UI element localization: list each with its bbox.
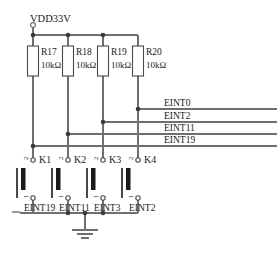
bottom-net-label-k3: EINT3 [94,204,120,214]
switch-ref-k3: K3 [109,155,121,165]
switch-ref-k2: K2 [74,155,86,165]
schematic-wires [0,0,277,254]
switch-pin-k1-top: 2 [23,157,30,160]
supply-label: VDD33V [30,14,71,25]
ground-icon [72,230,98,238]
switch-ref-k1: K1 [39,155,51,165]
switch-pin-k4-top: 2 [128,157,135,160]
switch-pin-k3-top: 2 [93,157,100,160]
switch-pin-k2-top: 2 [58,157,65,160]
rail-label-eint11: EINT11 [164,124,195,134]
switch-pin-k2-bottom: 1 [58,195,65,198]
switch-pin-k1-bottom: 1 [23,195,30,198]
switch-pin-k3-bottom: 1 [93,195,100,198]
bottom-net-label-k4: EINT2 [129,204,155,214]
resistor-ref-r18: R18 [76,48,92,58]
resistor-body-r17 [28,46,39,76]
resistor-ref-r20: R20 [146,48,162,58]
switch-ref-k4: K4 [144,155,156,165]
switch-pin-k4-bottom: 1 [128,195,135,198]
resistor-value-r19: 10kΩ [111,61,131,70]
rail-label-eint19: EINT19 [164,136,195,146]
resistor-ref-r19: R19 [111,48,127,58]
resistor-value-r18: 10kΩ [76,61,96,70]
resistor-body-r18 [63,46,74,76]
rail-label-eint0: EINT0 [164,99,190,109]
resistor-body-r20 [133,46,144,76]
resistor-value-r17: 10kΩ [41,61,61,70]
resistor-body-r19 [98,46,109,76]
resistor-ref-r17: R17 [41,48,57,58]
rail-label-eint2: EINT2 [164,112,190,122]
resistor-value-r20: 10kΩ [146,61,166,70]
schematic-canvas: VDD33V R17 10kΩ R18 10kΩ R19 10kΩ R20 10… [0,0,277,254]
bottom-net-label-k1: EINT19 [24,204,55,214]
bottom-net-label-k2: EINT11 [59,204,90,214]
